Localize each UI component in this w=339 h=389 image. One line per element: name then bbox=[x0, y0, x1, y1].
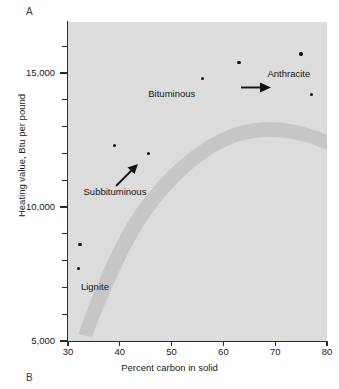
data-point bbox=[237, 61, 240, 64]
data-point bbox=[299, 52, 302, 55]
x-tick-label: 50 bbox=[157, 347, 187, 357]
data-point bbox=[113, 144, 116, 147]
upper-direction-arrow bbox=[240, 82, 270, 232]
lower-direction-arrow bbox=[114, 163, 142, 189]
y-tick-minor bbox=[62, 126, 68, 127]
x-tick-label: 60 bbox=[208, 347, 238, 357]
coal-heating-value-figure: A LigniteSubbituminousBituminousAnthraci… bbox=[0, 0, 339, 389]
panel-letter-b: B bbox=[26, 372, 33, 383]
y-axis-line bbox=[67, 21, 68, 342]
y-tick-label: 15,000 bbox=[3, 68, 55, 78]
y-tick-minor bbox=[62, 153, 68, 154]
y-tick-minor bbox=[62, 260, 68, 261]
y-tick-minor bbox=[62, 233, 68, 234]
x-axis-line bbox=[67, 341, 328, 342]
data-point bbox=[147, 152, 150, 155]
x-tick-label: 40 bbox=[105, 347, 135, 357]
data-point bbox=[77, 267, 80, 270]
x-axis-title: Percent carbon in solid bbox=[0, 362, 339, 373]
data-point bbox=[310, 93, 313, 96]
y-tick-minor bbox=[62, 314, 68, 315]
x-tick-label: 80 bbox=[312, 347, 339, 357]
series-label-subbituminous: Subbituminous bbox=[84, 186, 147, 197]
y-tick-major bbox=[60, 72, 68, 73]
y-tick-minor bbox=[62, 46, 68, 47]
series-label-bituminous: Bituminous bbox=[148, 88, 195, 99]
y-tick-label: 10,000 bbox=[3, 202, 55, 212]
panel-letter-a: A bbox=[26, 6, 33, 17]
y-tick-minor bbox=[62, 180, 68, 181]
data-point bbox=[201, 77, 204, 80]
y-tick-label: 5,000 bbox=[3, 336, 55, 346]
y-tick-minor bbox=[62, 287, 68, 288]
upper-direction-arrow bbox=[240, 81, 272, 94]
y-tick-minor bbox=[62, 99, 68, 100]
plot-area: LigniteSubbituminousBituminousAnthracite bbox=[68, 22, 327, 341]
x-tick-label: 30 bbox=[53, 347, 83, 357]
y-axis-title: Heating value, Btu per pound bbox=[16, 71, 27, 241]
y-tick-major bbox=[60, 206, 68, 207]
series-label-anthracite: Anthracite bbox=[267, 68, 310, 79]
x-tick-label: 70 bbox=[260, 347, 290, 357]
data-point bbox=[78, 243, 81, 246]
series-label-lignite: Lignite bbox=[81, 281, 109, 292]
